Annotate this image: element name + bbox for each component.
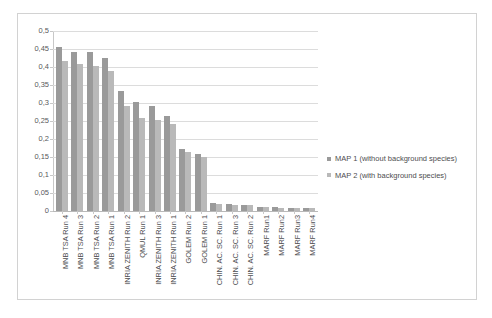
x-axis-tick-mark (93, 211, 94, 214)
chart-frame: 00,050,10,150,20,250,30,350,40,450,5 MNB… (17, 13, 477, 300)
x-axis-label-slot: INRIA ZENITH Run 3 (147, 211, 162, 297)
bar-group (209, 31, 224, 211)
x-axis-labels: MNB TSA Run 4MNB TSA Run 3MNB TSA Run 2M… (53, 211, 318, 297)
x-axis-tick-mark (216, 211, 217, 214)
y-axis-tick-label: 0,3 (39, 99, 49, 107)
x-axis-tick-label: CHIN. AC. SC. Run 2 (247, 215, 254, 285)
x-axis-tick-label: INRIA ZENITH Run 3 (155, 215, 162, 285)
bar-map2 (62, 61, 68, 211)
x-axis-label-slot: INRIA ZENITH Run 2 (116, 211, 131, 297)
x-axis-tick-mark (309, 211, 310, 214)
x-axis-tick-mark (108, 211, 109, 214)
x-axis-label-slot: GOLEM Run 1 (193, 211, 208, 297)
x-axis-label-slot: MARF Run4 (302, 211, 317, 297)
bar-group (69, 31, 84, 211)
bar-group (100, 31, 115, 211)
x-axis-tick-mark (247, 211, 248, 214)
bar-map2 (155, 120, 161, 211)
x-axis-label-slot: MNB TSA Run 2 (85, 211, 100, 297)
x-axis-label-slot: CHIN. AC. SC. Run 2 (240, 211, 255, 297)
x-axis-tick-label: MNB TSA Run 2 (93, 215, 100, 269)
x-axis-tick-label: MARF Run1 (263, 215, 270, 256)
x-axis-tick-label: MNB TSA Run 4 (62, 215, 69, 269)
x-axis-tick-mark (77, 211, 78, 214)
x-axis-tick-label: CHIN. AC. SC. Run 1 (216, 215, 223, 285)
x-axis-tick-mark (124, 211, 125, 214)
bar-group (255, 31, 270, 211)
x-axis-tick-mark (232, 211, 233, 214)
bar-group (224, 31, 239, 211)
legend-item[interactable]: MAP 2 (with background species) (327, 172, 477, 180)
bar-group (131, 31, 146, 211)
x-axis-tick-mark (294, 211, 295, 214)
x-axis-label-slot: MNB TSA Run 1 (100, 211, 115, 297)
bar-map2 (139, 118, 145, 211)
y-axis-tick-label: 0,1 (39, 171, 49, 179)
x-axis-tick-mark (263, 211, 264, 214)
legend-item[interactable]: MAP 1 (without background species) (327, 155, 477, 163)
bar-map2 (124, 106, 130, 211)
x-axis-tick-mark (201, 211, 202, 214)
x-axis-label-slot: MARF Run3 (286, 211, 301, 297)
bar-group (162, 31, 177, 211)
y-axis-tick-label: 0,4 (39, 63, 49, 71)
bars-layer (53, 31, 318, 211)
bar-group (147, 31, 162, 211)
legend-item-label: MAP 2 (with background species) (335, 172, 447, 180)
x-axis-tick-mark (185, 211, 186, 214)
y-axis-tick-label: 0,05 (34, 189, 49, 197)
bar-group (286, 31, 301, 211)
y-axis-tick-label: 0,2 (39, 135, 49, 143)
y-axis-tick-label: 0,15 (34, 153, 49, 161)
y-axis-tick-label: 0,5 (39, 27, 49, 35)
x-axis-label-slot: CHIN. AC. SC. Run 3 (224, 211, 239, 297)
x-axis-tick-mark (155, 211, 156, 214)
bar-group (85, 31, 100, 211)
bar-map2 (108, 71, 114, 211)
x-axis-tick-label: QMUL Run 1 (139, 215, 146, 258)
x-axis-label-slot: QMUL Run 1 (131, 211, 146, 297)
bar-map2 (201, 157, 207, 211)
plot-area: 00,050,10,150,20,250,30,350,40,450,5 (53, 31, 318, 211)
x-axis-tick-label: CHIN. AC. SC. Run 3 (232, 215, 239, 285)
x-axis-label-slot: MARF Run2 (271, 211, 286, 297)
x-axis-tick-mark (278, 211, 279, 214)
bar-group (240, 31, 255, 211)
x-axis-tick-label: INRIA ZENITH Run 1 (170, 215, 177, 285)
y-axis-tick-label: 0,35 (34, 81, 49, 89)
x-axis-label-slot: MARF Run1 (255, 211, 270, 297)
bar-map2 (93, 66, 99, 211)
x-axis-tick-label: MNB TSA Run 1 (108, 215, 115, 269)
x-axis-tick-label: GOLEM Run 1 (201, 215, 208, 263)
bar-group (178, 31, 193, 211)
bar-map2 (170, 124, 176, 211)
x-axis-label-slot: CHIN. AC. SC. Run 1 (209, 211, 224, 297)
x-axis-tick-label: MARF Run4 (309, 215, 316, 256)
bar-map2 (77, 64, 83, 211)
legend-swatch-icon (327, 173, 331, 177)
legend-swatch-icon (327, 157, 331, 161)
x-axis-tick-label: MARF Run2 (278, 215, 285, 256)
y-axis-tick-label: 0,25 (34, 117, 49, 125)
x-axis-label-slot: INRIA ZENITH Run 1 (162, 211, 177, 297)
legend-item-label: MAP 1 (without background species) (335, 155, 457, 163)
bar-group (302, 31, 317, 211)
bar-map2 (216, 204, 222, 211)
y-axis-tick-label: 0,45 (34, 45, 49, 53)
x-axis-tick-mark (139, 211, 140, 214)
bar-group (54, 31, 69, 211)
bar-group (193, 31, 208, 211)
x-axis-tick-mark (62, 211, 63, 214)
y-axis-tick-label: 0 (45, 207, 49, 215)
x-axis-label-slot: MNB TSA Run 3 (69, 211, 84, 297)
bar-group (116, 31, 131, 211)
x-axis-tick-label: MNB TSA Run 3 (77, 215, 84, 269)
x-axis-label-slot: MNB TSA Run 4 (54, 211, 69, 297)
chart-legend: MAP 1 (without background species)MAP 2 … (327, 155, 477, 188)
bar-map2 (185, 152, 191, 211)
x-axis-tick-mark (170, 211, 171, 214)
x-axis-tick-label: GOLEM Run 2 (185, 215, 192, 263)
x-axis-label-slot: GOLEM Run 2 (178, 211, 193, 297)
x-axis-tick-label: INRIA ZENITH Run 2 (124, 215, 131, 285)
bar-group (271, 31, 286, 211)
